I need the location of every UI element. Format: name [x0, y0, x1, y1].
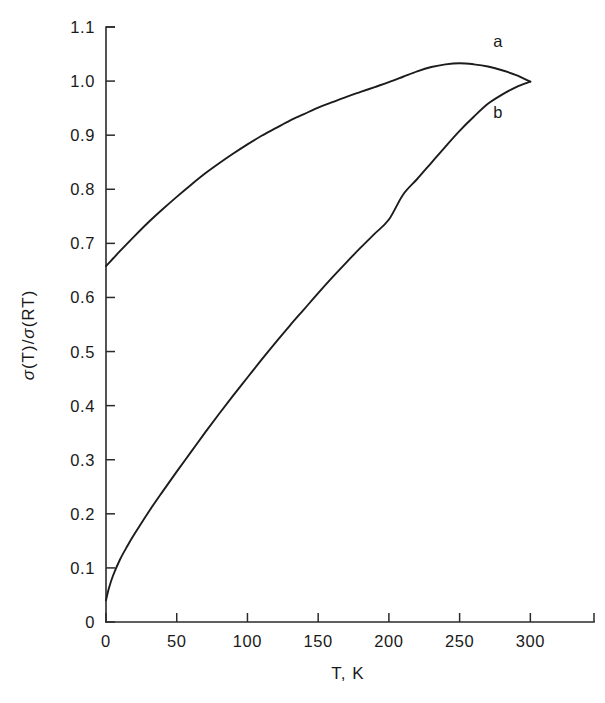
x-tick-label: 250 [445, 632, 474, 650]
line-chart-svg: 00.10.20.30.40.50.60.70.80.91.01.1 05010… [0, 0, 605, 703]
y-axis-title-sigma-1: σ [19, 369, 38, 380]
y-tick-label: 0.9 [70, 126, 95, 144]
y-tick-label: 0.7 [70, 234, 95, 252]
data-curve-b [106, 82, 530, 601]
y-tick-label: 0 [85, 613, 95, 631]
y-tick-label: 0.4 [70, 397, 95, 415]
x-axis-title: T, K [331, 664, 364, 683]
x-tick-label: 200 [374, 632, 403, 650]
y-tick-label: 0.2 [70, 505, 95, 523]
data-curves [106, 63, 530, 600]
y-tick-label: 0.1 [70, 559, 95, 577]
x-tick-label: 100 [233, 632, 262, 650]
curve-label-b: b [493, 103, 502, 121]
x-tick-label: 50 [167, 632, 187, 650]
y-tick-label: 1.0 [70, 72, 95, 90]
x-tick-label: 0 [101, 632, 111, 650]
chart-figure: 00.10.20.30.40.50.60.70.80.91.01.1 05010… [0, 0, 605, 703]
data-curve-a [106, 63, 530, 266]
curve-labels: ab [493, 32, 503, 121]
y-axis-title-sigma-2: σ [19, 327, 38, 338]
y-tick-label: 0.5 [70, 343, 95, 361]
curve-label-a: a [493, 32, 503, 50]
y-axis-title-part-2: (RT) [19, 290, 38, 328]
y-tick-label: 0.8 [70, 180, 95, 198]
y-tick-label: 1.1 [70, 18, 95, 36]
y-axis-ticks: 00.10.20.30.40.50.60.70.80.91.01.1 [70, 18, 115, 631]
y-tick-label: 0.6 [70, 288, 95, 306]
x-tick-label: 150 [304, 632, 333, 650]
y-axis-title: σ(T)/σ(RT) [19, 290, 38, 381]
y-tick-label: 0.3 [70, 451, 95, 469]
x-tick-label: 300 [516, 632, 545, 650]
y-axis-title-part-1: (T)/ [19, 339, 38, 369]
x-axis-ticks: 050100150200250300 [101, 613, 594, 650]
